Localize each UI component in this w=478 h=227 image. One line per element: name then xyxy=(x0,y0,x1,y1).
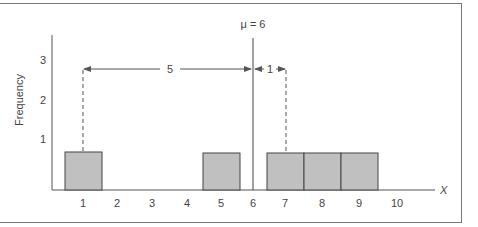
svg-text:1: 1 xyxy=(80,197,86,209)
svg-text:9: 9 xyxy=(356,197,362,209)
bar-5 xyxy=(203,153,240,190)
frequency-histogram: X Frequency 3 2 1 1 2 3 4 5 6 7 8 9 10 μ… xyxy=(0,0,478,227)
x-ticks: 1 2 3 4 5 6 7 8 9 10 xyxy=(80,197,403,209)
y-axis-label: Frequency xyxy=(13,74,25,126)
distance-label-1: 1 xyxy=(267,63,273,75)
svg-text:7: 7 xyxy=(282,197,288,209)
bar-9 xyxy=(341,153,378,190)
mean-label: μ = 6 xyxy=(241,18,266,30)
svg-text:6: 6 xyxy=(250,197,256,209)
y-tick-3: 3 xyxy=(40,54,46,66)
svg-text:8: 8 xyxy=(319,197,325,209)
bars xyxy=(65,152,378,190)
bar-7 xyxy=(267,153,304,190)
distance-label-5: 5 xyxy=(167,63,173,75)
bar-1 xyxy=(65,152,102,190)
svg-text:4: 4 xyxy=(184,197,190,209)
svg-text:5: 5 xyxy=(218,197,224,209)
svg-text:10: 10 xyxy=(391,197,403,209)
y-tick-2: 2 xyxy=(40,94,46,106)
svg-text:3: 3 xyxy=(149,197,155,209)
x-axis-label: X xyxy=(439,184,448,196)
y-tick-1: 1 xyxy=(40,133,46,145)
bar-8 xyxy=(304,153,341,190)
svg-text:2: 2 xyxy=(114,197,120,209)
